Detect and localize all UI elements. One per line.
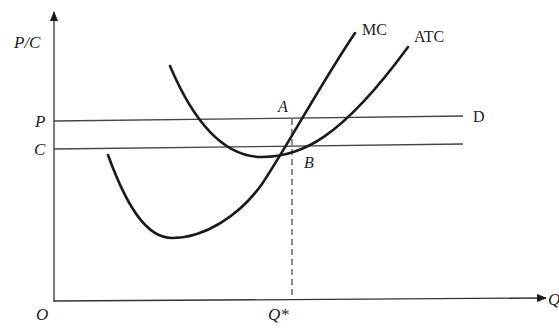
cost-revenue-diagram: P/C P C MC ATC D A B O Q* Q	[0, 0, 559, 333]
x-axis-label: Q	[548, 290, 559, 309]
point-a-label: A	[277, 98, 288, 115]
mc-curve	[108, 33, 355, 238]
point-b-label: B	[304, 154, 314, 171]
cost-line-c	[54, 144, 463, 149]
price-label-p: P	[34, 112, 45, 131]
demand-label: D	[473, 108, 485, 125]
price-line-demand	[54, 116, 463, 121]
atc-label: ATC	[414, 28, 444, 45]
y-axis-label: P/C	[13, 33, 41, 52]
mc-label: MC	[362, 21, 387, 38]
origin-label: O	[36, 305, 48, 324]
cost-label-c: C	[34, 140, 46, 159]
x-axis	[54, 298, 546, 301]
q-star-label: Q*	[268, 305, 289, 324]
